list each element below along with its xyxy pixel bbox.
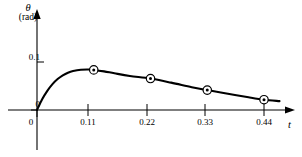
y-tick-label-0.1: 0.1 (14, 52, 40, 62)
y-axis-label: θ (rad) (6, 2, 50, 23)
x-tick-label-0.33: 0.33 (188, 117, 222, 127)
x-tick-label-0.11: 0.11 (71, 117, 105, 127)
data-point-marker-center (263, 98, 266, 101)
data-point-marker-center (149, 77, 152, 80)
chart-figure: θ (rad) t 0.1 0 0 0.11 0.22 0.33 0.44 (0, 0, 302, 157)
data-point-marker-center (206, 89, 209, 92)
chart-plot-area (0, 0, 302, 157)
x-tick-label-0.22: 0.22 (130, 117, 164, 127)
x-tick-label-0: 0 (24, 117, 38, 127)
x-axis-arrowhead (285, 106, 295, 113)
x-tick-label-0.44: 0.44 (247, 117, 281, 127)
y-axis-label-unit: (rad) (6, 13, 50, 23)
x-axis-label: t (288, 119, 291, 130)
theta-curve (37, 70, 279, 110)
y-tick-label-0: 0 (14, 99, 40, 109)
data-point-marker-center (92, 68, 95, 71)
